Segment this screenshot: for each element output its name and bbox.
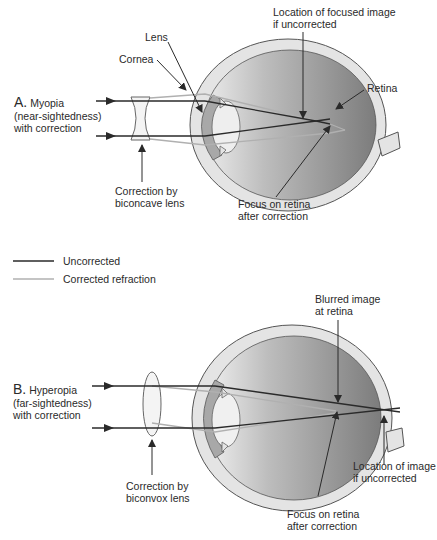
label-lens: Lens bbox=[145, 31, 168, 43]
label-blurred-image: Blurred image at retina bbox=[315, 293, 380, 317]
incoming-arrow-icons-a bbox=[106, 97, 116, 140]
label-retina: Retina bbox=[367, 82, 397, 94]
panel-a-letter: A. bbox=[14, 94, 27, 110]
label-cornea: Cornea bbox=[119, 53, 153, 65]
legend-uncorrected: Uncorrected bbox=[63, 255, 120, 267]
biconcave-lens bbox=[131, 97, 150, 140]
legend-swatches bbox=[13, 261, 54, 279]
label-correction-biconvex: Correction by biconvox lens bbox=[126, 480, 190, 504]
label-focused-image: Location of focused image if uncorrected bbox=[273, 6, 396, 30]
label-location-uncorrected: Location of image if uncorrected bbox=[353, 460, 436, 484]
biconvex-lens bbox=[143, 372, 161, 436]
myopia-title: A. Myopia (near-sightedness) with correc… bbox=[14, 96, 102, 135]
incoming-arrow-icons-b bbox=[104, 382, 114, 432]
eye-refraction-diagram bbox=[0, 0, 437, 540]
legend-corrected: Corrected refraction bbox=[63, 273, 156, 285]
label-focus-after-correction-b: Focus on retina after correction bbox=[287, 508, 359, 532]
myopia-eye bbox=[190, 39, 400, 211]
panel-b-letter: B. bbox=[13, 381, 26, 397]
hyperopia-title: B. Hyperopia (far-sightedness) with corr… bbox=[13, 383, 92, 422]
label-correction-biconcave: Correction by biconcave lens bbox=[115, 185, 184, 209]
label-focus-after-correction-a: Focus on retina after correction bbox=[238, 198, 310, 222]
